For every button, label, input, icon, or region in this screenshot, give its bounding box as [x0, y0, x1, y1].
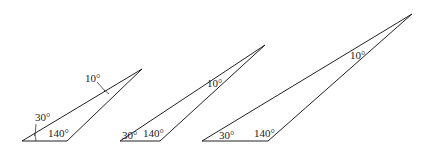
- triangle-2-label-140: 140°: [143, 127, 164, 139]
- triangle-1-leader-left: [35, 124, 36, 136]
- triangle-1-label-30: 30°: [35, 111, 50, 123]
- triangle-2-label-10: 10°: [207, 77, 222, 89]
- triangle-1-label-10: 10°: [85, 72, 100, 84]
- triangle-2-outline: [120, 45, 265, 141]
- triangle-3-label-30: 30°: [219, 129, 234, 141]
- triangle-3-outline: [202, 14, 412, 141]
- triangles-diagram: 30° 140° 10° 30° 140° 10° 30° 140° 10°: [0, 0, 433, 154]
- triangle-1-label-140: 140°: [48, 127, 69, 139]
- triangle-3-label-10: 10°: [350, 49, 365, 61]
- triangle-3-label-140: 140°: [254, 127, 275, 139]
- triangle-3: 30° 140° 10°: [202, 14, 412, 141]
- triangle-2: 30° 140° 10°: [120, 45, 265, 141]
- triangle-2-label-30: 30°: [122, 129, 137, 141]
